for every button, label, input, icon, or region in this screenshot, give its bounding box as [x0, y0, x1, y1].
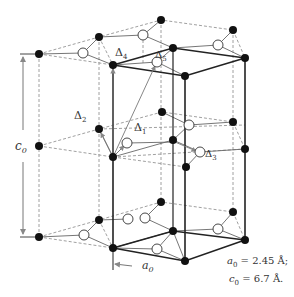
delta-vectors	[101, 66, 196, 157]
a0-value-note: a0 = 2.45 Å;	[227, 255, 288, 269]
delta1-label: Δ1	[134, 121, 146, 136]
c0-label: c0	[15, 139, 27, 155]
unit-cell-edges	[113, 48, 245, 270]
a0-label: a0	[142, 259, 154, 274]
a0-arrow	[115, 264, 132, 266]
graphite-structure-diagram: Δ4 Δ5 Δ2 Δ1 Δ3 c0 a0 a0 = 2.45 Å; c0 = 6…	[0, 0, 294, 297]
c0-value-note: c0 = 6.7 Å.	[229, 273, 283, 287]
delta4-label: Δ4	[115, 46, 128, 61]
delta2-label: Δ2	[74, 109, 86, 124]
delta3-label: Δ3	[205, 148, 217, 162]
crystal-lattice-svg: Δ4 Δ5 Δ2 Δ1 Δ3 c0 a0	[0, 0, 294, 297]
